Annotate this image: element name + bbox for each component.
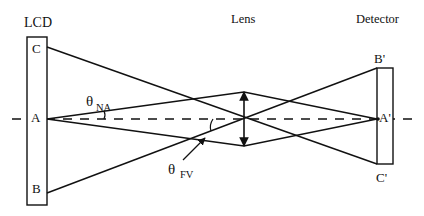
focus-point-a-prime (376, 117, 380, 121)
lcd-label: LCD (24, 15, 52, 30)
point-a-label: A (31, 110, 41, 125)
theta-fv-subscript: FV (180, 169, 194, 180)
point-b-label: B (32, 181, 41, 196)
ray-a-lower (47, 119, 377, 146)
lens-label: Lens (231, 12, 255, 26)
point-c-label: C (32, 41, 41, 56)
point-b-prime-label: B' (374, 51, 385, 66)
ray-b-to-b-prime (47, 68, 377, 193)
theta-na-symbol: θ (86, 93, 93, 109)
theta-fv-symbol: θ (168, 161, 175, 177)
theta-na-subscript: NA (96, 102, 112, 113)
theta-fv-pointer (183, 138, 205, 160)
point-a-prime-label: A' (379, 110, 391, 125)
point-c-prime-label: C' (376, 170, 387, 185)
detector-label: Detector (356, 12, 400, 26)
optical-diagram: LCD C A B Detector B' A' C' Lens θ NA θ … (0, 0, 424, 216)
theta-fv-arc (210, 119, 213, 131)
